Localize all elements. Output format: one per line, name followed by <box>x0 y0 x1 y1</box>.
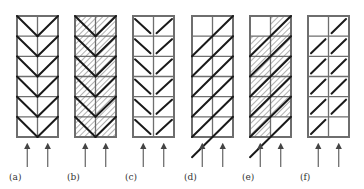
strut-line <box>135 19 151 33</box>
strut-line <box>157 59 173 73</box>
strut-line <box>17 56 38 76</box>
strut-line <box>332 80 347 94</box>
panel-label: (a) <box>9 172 21 182</box>
strut-line <box>311 120 326 134</box>
strut-line <box>135 39 151 53</box>
panel-label: (f) <box>300 172 310 182</box>
panel-label: (e) <box>242 172 254 182</box>
strut-line <box>311 80 326 94</box>
strut-line <box>157 100 173 114</box>
strut-line <box>38 36 59 56</box>
panel-c: (c) <box>125 16 174 182</box>
strut-line <box>38 117 59 137</box>
figure-canvas: (a)(b)(c)(d)(e)(f) <box>0 0 364 189</box>
strut-line <box>135 100 151 114</box>
panel-e: (e) <box>242 16 291 182</box>
strut-line <box>17 97 38 117</box>
strut-line <box>311 39 326 53</box>
strut-line <box>135 120 151 134</box>
panel-label: (c) <box>125 172 137 182</box>
strut-line <box>157 39 173 53</box>
strut-line <box>135 59 151 73</box>
strut-line <box>311 100 326 114</box>
strut-line <box>311 59 326 73</box>
strut-line <box>17 36 38 56</box>
panel-a: (a) <box>9 16 58 182</box>
panel-d: (d) <box>184 16 233 182</box>
strut-line <box>332 39 347 53</box>
strut-line <box>17 16 38 36</box>
strut-line <box>38 56 59 76</box>
strut-line <box>17 117 38 137</box>
strut-line <box>38 97 59 117</box>
strut-line <box>157 120 173 134</box>
strut-line <box>17 77 38 97</box>
strut-line <box>135 80 151 94</box>
strut-line <box>38 77 59 97</box>
strut-line <box>157 19 173 33</box>
strut-line <box>332 59 347 73</box>
strut-line <box>38 16 59 36</box>
panel-label: (d) <box>184 172 197 182</box>
panel-label: (b) <box>67 172 80 182</box>
panel-f: (f) <box>300 16 349 182</box>
strut-line <box>157 80 173 94</box>
strut-line <box>332 19 347 33</box>
panel-b: (b) <box>67 16 116 182</box>
strut-line <box>332 100 347 114</box>
